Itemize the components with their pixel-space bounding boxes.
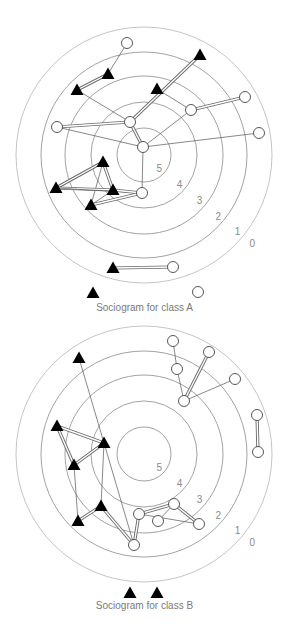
rings-a [16, 27, 272, 283]
ring-label-2: 2 [215, 211, 221, 222]
ring-2 [41, 351, 247, 557]
mutual-choice-edge-inner [113, 267, 173, 268]
boy-triangle-icon [95, 500, 108, 511]
boy-triangle-icon [68, 459, 81, 470]
mutual-choice-edge-inner [101, 506, 134, 545]
mutual-choice-edge-inner [174, 504, 199, 524]
one-way-choice-edge [101, 443, 104, 506]
girl-circle-icon [194, 519, 205, 530]
one-way-choice-edge [177, 369, 184, 401]
ring-5 [117, 128, 171, 182]
boy-triangle-icon [51, 420, 64, 431]
mutual-choice-edge-inner [139, 504, 174, 514]
edges-a [56, 43, 259, 268]
mutual-choice-edge [139, 504, 174, 514]
mutual-choice-edge [74, 443, 104, 465]
one-way-choice-edge [77, 90, 130, 122]
ring-labels-b: 012345 [157, 462, 256, 549]
boy-triangle-icon [87, 287, 100, 298]
ring-2 [41, 52, 247, 258]
ring-label-5: 5 [157, 462, 163, 473]
mutual-choice-edge-inner [257, 415, 258, 452]
girl-circle-icon [253, 447, 264, 458]
girl-circle-icon [168, 336, 179, 347]
ring-labels-a: 012345 [157, 163, 256, 250]
caption-class-b: Sociogram for class B [0, 600, 289, 611]
one-way-choice-edge [57, 127, 143, 147]
girl-circle-icon [252, 410, 263, 421]
mutual-choice-edge [184, 352, 209, 401]
rings-b [16, 326, 272, 582]
girl-circle-icon [153, 516, 164, 527]
boy-triangle-icon [194, 49, 207, 60]
mutual-choice-edge [57, 426, 74, 465]
boy-triangle-icon [72, 515, 85, 526]
mutual-choice-edge [257, 415, 258, 452]
boy-triangle-icon [151, 83, 164, 94]
girl-circle-icon [137, 188, 148, 199]
mutual-choice-edge [134, 514, 139, 545]
boy-triangle-icon [151, 587, 164, 598]
boy-triangle-icon [98, 437, 111, 448]
mutual-choice-edge-inner [191, 97, 245, 110]
mutual-choice-edge [78, 506, 101, 521]
one-way-choice-edge [139, 514, 199, 524]
girl-circle-icon [230, 374, 241, 385]
girl-circle-icon [186, 105, 197, 116]
ring-label-1: 1 [235, 525, 241, 536]
mutual-choice-edge-inner [184, 352, 209, 401]
girl-circle-icon [254, 128, 265, 139]
mutual-choice-edge [174, 504, 199, 524]
girl-circle-icon [168, 262, 179, 273]
ring-label-0: 0 [250, 537, 256, 548]
mutual-choice-edge-inner [57, 426, 104, 443]
girl-circle-icon [179, 396, 190, 407]
ring-3 [65, 76, 223, 234]
girl-circle-icon [138, 142, 149, 153]
girl-circle-icon [129, 540, 140, 551]
one-way-choice-edge [104, 443, 134, 545]
ring-1 [16, 326, 272, 582]
girl-circle-icon [169, 499, 180, 510]
mutual-choice-edge-inner [74, 443, 104, 465]
ring-3 [65, 375, 223, 533]
girl-circle-icon [134, 509, 145, 520]
girl-circle-icon [125, 117, 136, 128]
edges-b [57, 341, 258, 545]
mutual-choice-edge [101, 506, 134, 545]
boy-triangle-icon [73, 352, 86, 363]
ring-1 [16, 27, 272, 283]
mutual-choice-edge-inner [57, 426, 74, 465]
girl-circle-icon [193, 287, 204, 298]
sociogram-class-a: 012345 [0, 0, 289, 320]
girl-circle-icon [204, 347, 215, 358]
mutual-choice-edge-inner [134, 514, 139, 545]
one-way-choice-edge [143, 133, 259, 147]
ring-5 [117, 427, 171, 481]
one-way-choice-edge [158, 504, 174, 521]
ring-label-5: 5 [157, 163, 163, 174]
ring-label-3: 3 [197, 195, 203, 206]
mutual-choice-edge-inner [56, 162, 103, 188]
ring-4 [91, 401, 197, 507]
ring-label-3: 3 [197, 494, 203, 505]
girl-circle-icon [240, 92, 251, 103]
girl-circle-icon [52, 122, 63, 133]
one-way-choice-edge [79, 358, 104, 443]
ring-label-2: 2 [215, 510, 221, 521]
ring-label-1: 1 [235, 226, 241, 237]
ring-label-4: 4 [177, 179, 183, 190]
boy-triangle-icon [102, 68, 115, 79]
one-way-choice-edge [173, 341, 177, 369]
ring-label-4: 4 [177, 478, 183, 489]
girl-circle-icon [172, 364, 183, 375]
mutual-choice-edge-inner [78, 506, 101, 521]
one-way-choice-edge [142, 147, 143, 193]
one-way-choice-edge [184, 379, 235, 401]
caption-class-a: Sociogram for class A [0, 302, 289, 313]
one-way-choice-edge [74, 465, 78, 521]
mutual-choice-edge-inner [57, 122, 130, 127]
boy-triangle-icon [124, 587, 137, 598]
ring-label-0: 0 [250, 238, 256, 249]
mutual-choice-edge [57, 426, 104, 443]
